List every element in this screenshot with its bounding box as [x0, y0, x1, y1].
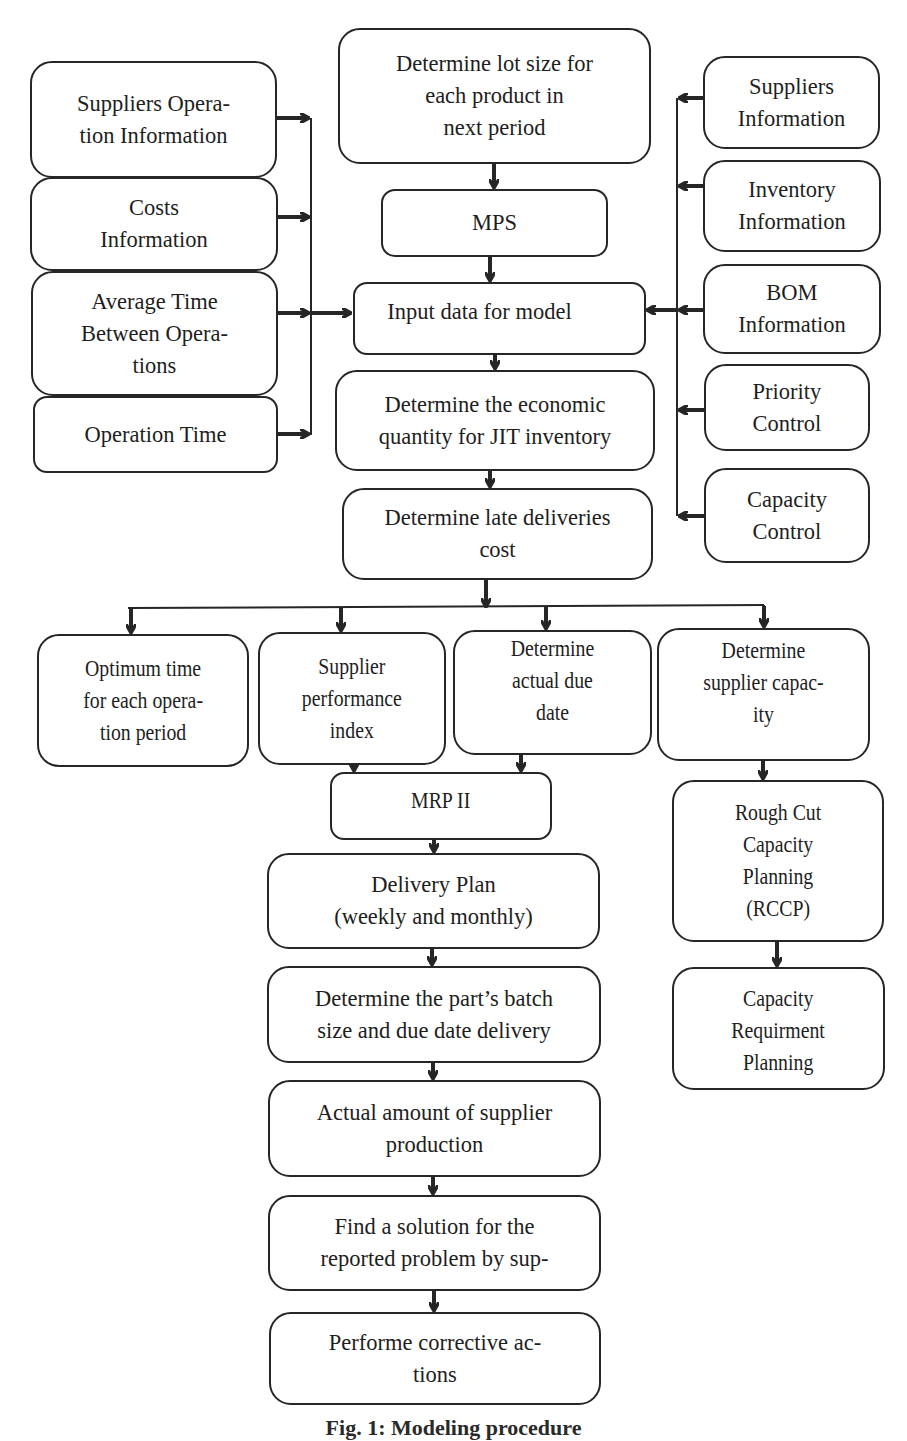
figure-caption: Fig. 1: Modeling procedure: [0, 1415, 907, 1441]
node-suppliers-information: Suppliers Information: [703, 56, 880, 149]
node-label: Determine the part’s batch size and due …: [315, 983, 553, 1047]
node-input-data-for-model: Input data for model: [353, 282, 646, 355]
node-delivery-plan: Delivery Plan (weekly and monthly): [267, 853, 600, 949]
node-label: Capacity Requirment Planning: [732, 983, 825, 1079]
node-average-time-between-operations: Average Time Between Opera- tions: [31, 271, 278, 396]
node-mps: MPS: [381, 189, 608, 257]
node-inventory-information: Inventory Information: [703, 160, 881, 252]
node-label: Determine actual due date: [511, 633, 595, 729]
node-label: Determine late deliveries cost: [384, 502, 610, 566]
node-determine-actual-due-date: Determine actual due date: [453, 630, 652, 755]
node-label: Capacity Control: [747, 484, 827, 548]
node-operation-time: Operation Time: [33, 396, 278, 473]
node-determine-economic-quantity: Determine the economic quantity for JIT …: [335, 370, 655, 471]
node-label: Costs Information: [100, 192, 207, 256]
node-label: Determine lot size for each product in n…: [396, 48, 593, 144]
node-determine-supplier-capacity: Determine supplier capac- ity: [657, 628, 870, 761]
node-label: Input data for model: [387, 296, 571, 328]
node-corrective-actions: Performe corrective ac- tions: [269, 1312, 601, 1405]
node-determine-late-deliveries-cost: Determine late deliveries cost: [342, 488, 653, 580]
node-label: Suppliers Information: [738, 71, 845, 135]
node-mrp-ii: MRP II: [330, 772, 552, 840]
node-suppliers-operation-information: Suppliers Opera- tion Information: [30, 61, 277, 178]
node-costs-information: Costs Information: [30, 177, 278, 271]
node-supplier-performance-index: Supplier performance index: [258, 632, 446, 765]
node-label: Average Time Between Opera- tions: [81, 286, 228, 382]
node-determine-lot-size: Determine lot size for each product in n…: [338, 28, 651, 164]
node-label: Priority Control: [753, 376, 822, 440]
node-label: Operation Time: [85, 419, 227, 451]
node-optimum-time: Optimum time for each opera- tion period: [37, 634, 249, 767]
node-label: Actual amount of supplier production: [317, 1097, 553, 1161]
node-label: Optimum time for each opera- tion period: [83, 653, 203, 749]
node-label: Supplier performance index: [302, 651, 402, 747]
node-label: Inventory Information: [738, 174, 845, 238]
node-rough-cut-capacity-planning: Rough Cut Capacity Planning (RCCP): [672, 780, 884, 942]
node-find-solution: Find a solution for the reported problem…: [268, 1195, 601, 1291]
node-batch-size-due-date: Determine the part’s batch size and due …: [267, 966, 601, 1063]
fanout-line: [128, 605, 764, 608]
node-label: BOM Information: [738, 277, 845, 341]
node-label: Determine supplier capac- ity: [703, 635, 823, 731]
node-label: MPS: [472, 207, 517, 239]
node-label: MRP II: [411, 785, 470, 817]
node-actual-supplier-production: Actual amount of supplier production: [268, 1080, 601, 1177]
node-label: Suppliers Opera- tion Information: [77, 88, 230, 152]
node-label: Rough Cut Capacity Planning (RCCP): [735, 797, 821, 925]
node-priority-control: Priority Control: [704, 364, 870, 451]
node-capacity-control: Capacity Control: [704, 468, 870, 563]
node-label: Delivery Plan (weekly and monthly): [334, 869, 533, 933]
node-capacity-requirement-planning: Capacity Requirment Planning: [672, 967, 885, 1090]
node-bom-information: BOM Information: [703, 264, 881, 354]
node-label: Performe corrective ac- tions: [329, 1327, 541, 1391]
node-label: Determine the economic quantity for JIT …: [379, 389, 612, 453]
node-label: Find a solution for the reported problem…: [320, 1211, 548, 1275]
